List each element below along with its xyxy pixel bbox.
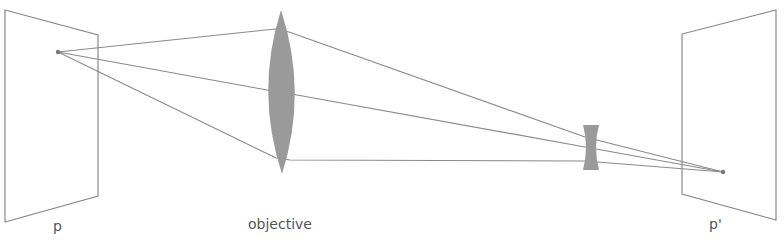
object-point xyxy=(56,50,60,54)
object-plane xyxy=(5,10,98,222)
label-object-plane: p xyxy=(53,218,62,234)
objective-lens xyxy=(268,10,295,174)
label-objective: objective xyxy=(248,216,312,232)
image-point xyxy=(721,170,725,174)
image-plane xyxy=(682,10,776,220)
ray-diagram xyxy=(0,0,784,248)
label-image-plane: p' xyxy=(709,216,722,232)
ray-middle xyxy=(58,52,723,172)
